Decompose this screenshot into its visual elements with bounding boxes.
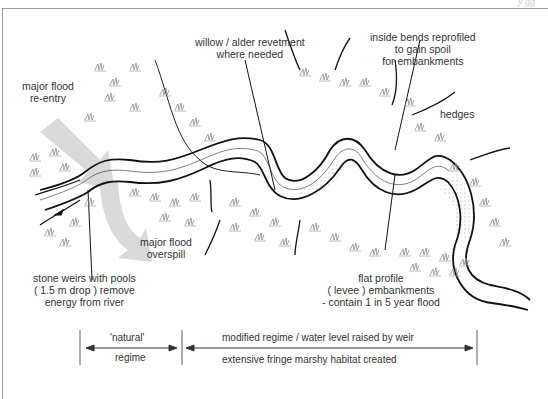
scale-natural-bottom: regime <box>115 352 146 363</box>
label-line: for embankments <box>370 55 476 67</box>
label-flood-overspill: major flood overspill <box>140 236 192 260</box>
label-flood-reentry: major flood re-entry <box>22 80 74 104</box>
label-line: - contain 1 in 5 year flood <box>322 296 440 308</box>
label-line: major flood <box>140 236 192 248</box>
label-inside-bends: inside bends reprofiled to gain spoil fo… <box>370 31 476 67</box>
scale-modified-bottom: extensive fringe marshy habitat created <box>222 354 397 365</box>
label-line: energy from river <box>33 296 136 308</box>
label-line: willow / alder revetment <box>195 36 305 48</box>
label-line: inside bends reprofiled <box>370 31 476 43</box>
label-line: major flood <box>22 80 74 92</box>
scale-natural-top: 'natural' <box>110 332 144 343</box>
label-hedges: hedges <box>440 108 474 120</box>
flood-reentry-arrow <box>40 118 115 190</box>
label-line: stone weirs with pools <box>33 272 136 284</box>
label-embankments: flat profile ( levee ) embankments - con… <box>322 272 440 308</box>
label-line: ( levee ) embankments <box>322 284 440 296</box>
label-line: to gain spoil <box>370 43 476 55</box>
tributary-line <box>155 60 260 175</box>
label-stone-weirs: stone weirs with pools ( 1.5 m drop ) re… <box>33 272 136 308</box>
label-line: where needed <box>195 48 305 60</box>
marsh-fringe-2 <box>300 160 345 198</box>
scale-modified-top: modified regime / water level raised by … <box>222 332 414 343</box>
label-revetment: willow / alder revetment where needed <box>195 36 305 60</box>
label-line: overspill <box>140 248 192 260</box>
label-line: ( 1.5 m drop ) remove <box>33 284 136 296</box>
label-line: re-entry <box>22 92 74 104</box>
label-line: flat profile <box>322 272 440 284</box>
